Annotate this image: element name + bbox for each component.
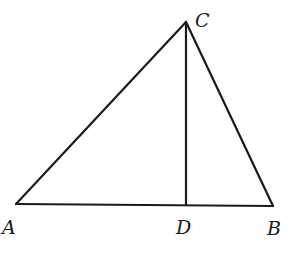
label-c: C xyxy=(195,9,210,31)
segment-ac xyxy=(16,22,186,204)
segment-ab xyxy=(16,204,273,206)
segment-cb xyxy=(186,22,273,206)
label-b: B xyxy=(266,217,281,239)
label-a: A xyxy=(0,216,16,238)
label-d: D xyxy=(175,216,191,238)
triangle-diagram: A D B C xyxy=(0,0,301,259)
